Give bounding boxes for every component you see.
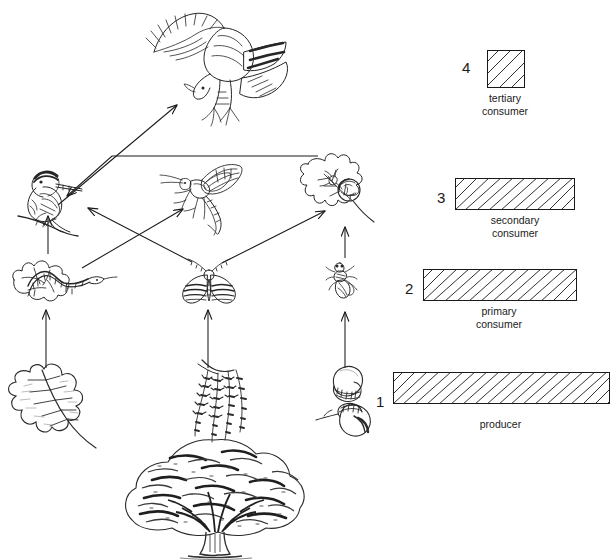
legend-bar-4 <box>487 50 525 88</box>
legend-caption-3-line1: secondary <box>408 214 612 227</box>
legend-caption-2-line2: consumer <box>392 318 606 331</box>
legend-caption-3-line2: consumer <box>408 227 612 240</box>
songbird-icon <box>16 158 96 232</box>
legend-caption-4: tertiary consumer <box>437 92 573 118</box>
hawk-icon <box>140 8 292 130</box>
legend-bar-3 <box>455 178 575 210</box>
legend-number-4: 4 <box>462 60 470 75</box>
oak-leaf-icon <box>4 360 130 462</box>
legend-number-1: 1 <box>376 394 384 409</box>
legend-caption-2: primary consumer <box>392 305 606 331</box>
legend-caption-3: secondary consumer <box>408 214 612 240</box>
weevil-icon <box>326 258 362 302</box>
legend-bar-2 <box>423 269 577 301</box>
acorns-icon <box>316 362 384 442</box>
legend-number-3: 3 <box>437 190 445 205</box>
legend-caption-4-line2: consumer <box>437 105 573 118</box>
legend-caption-1: producer <box>393 418 608 431</box>
moth-icon <box>180 258 238 310</box>
legend-caption-4-line1: tertiary <box>437 92 573 105</box>
ichneumon-wasp-icon <box>160 158 244 236</box>
legend-bar-1 <box>393 372 610 404</box>
oak-gall-leaf-icon <box>296 150 382 228</box>
oak-tree-icon <box>118 436 312 560</box>
legend-caption-2-line1: primary <box>392 305 606 318</box>
caterpillar-icon <box>8 252 118 306</box>
legend-number-2: 2 <box>405 281 413 296</box>
legend-caption-1-line1: producer <box>393 418 608 431</box>
